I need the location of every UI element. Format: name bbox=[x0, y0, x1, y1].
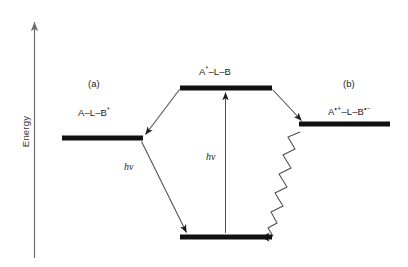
energy-axis-label: Energy bbox=[20, 102, 31, 162]
arrow-electron-transfer-right bbox=[273, 90, 302, 121]
panel-tag-b: (b) bbox=[343, 78, 355, 89]
level-bar-charge-separated-state bbox=[299, 122, 390, 127]
level-bar-locally-excited-acceptor bbox=[62, 136, 143, 141]
level-label-base-acceptor: A–L–B bbox=[78, 107, 107, 118]
level-label-mid-cs: –L–B bbox=[341, 106, 364, 117]
level-label-locally-excited-acceptor: A–L–B* bbox=[78, 106, 110, 118]
energy-level-diagram: Energy (a) (b) A–L–B* A*–L–B A•+–L–B•− h… bbox=[0, 0, 408, 267]
level-label-sup-cs-acceptor: •− bbox=[364, 105, 371, 112]
transition-label-absorption-center: hν bbox=[206, 151, 215, 162]
level-label-locally-excited-donor: A*–L–B bbox=[199, 65, 231, 77]
arrow-energy-transfer-left bbox=[146, 90, 180, 135]
panel-tag-a: (a) bbox=[88, 78, 100, 89]
level-bar-locally-excited-donor bbox=[180, 86, 272, 91]
level-label-charge-separated-state: A•+–L–B•− bbox=[328, 105, 371, 117]
transition-label-emission-left: hν bbox=[124, 161, 133, 172]
arrow-emission-left bbox=[142, 142, 187, 233]
diagram-canvas bbox=[0, 0, 408, 267]
level-label-post-donor: –L–B bbox=[208, 66, 231, 77]
transition-arrows bbox=[142, 90, 302, 242]
level-bar-ground-state bbox=[180, 235, 272, 240]
level-label-sup-acceptor: * bbox=[107, 106, 110, 113]
zigzag-radiationless-decay bbox=[268, 132, 300, 236]
